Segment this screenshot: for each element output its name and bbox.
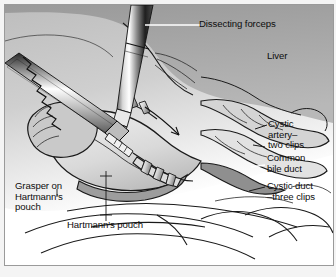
label-hartmanns-pouch: Hartmann's pouch <box>67 220 143 231</box>
label-grasper-on-hartmanns-pouch: Grasper on Hartmann's pouch <box>15 181 63 213</box>
label-liver: Liver <box>267 51 287 62</box>
figure-canvas: Dissecting forceps Liver Cystic artery– … <box>0 0 336 277</box>
label-dissecting-forceps: Dissecting forceps <box>199 19 276 30</box>
label-cystic-duct: Cystic duct –three clips <box>267 181 315 202</box>
illustration-frame: Dissecting forceps Liver Cystic artery– … <box>4 4 334 266</box>
label-cystic-artery: Cystic artery– two clips <box>268 119 304 151</box>
label-common-bile-duct: Common bile duct <box>267 153 305 174</box>
